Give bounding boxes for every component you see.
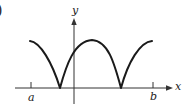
tick-label-b: b: [150, 91, 157, 102]
tick-label-a: a: [28, 92, 35, 103]
x-axis-label: x: [175, 81, 181, 92]
y-axis-label: y: [72, 5, 78, 16]
y-axis-arrow-icon: [71, 18, 76, 25]
x-axis-arrow-icon: [166, 85, 173, 90]
curve: [30, 40, 152, 88]
y-axis: [71, 18, 76, 104]
